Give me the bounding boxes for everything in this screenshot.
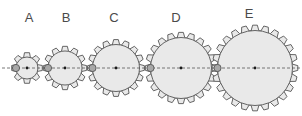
label-group: ABCDE: [25, 6, 254, 25]
gear-e-hub: [214, 64, 221, 71]
gear-d-center-dot: [180, 67, 183, 70]
gear-label-e: E: [245, 6, 254, 21]
gear-diagram-canvas: ABCDE: [0, 0, 302, 116]
gear-e-center-dot: [254, 67, 257, 70]
gear-b-center-dot: [64, 67, 67, 70]
gear-label-b: B: [62, 10, 71, 25]
gear-label-c: C: [109, 10, 118, 25]
gear-d-hub: [147, 64, 154, 71]
gear-c-hub: [89, 64, 96, 71]
gear-label-d: D: [171, 10, 180, 25]
gear-c-center-dot: [115, 67, 118, 70]
gear-a-center-dot: [26, 67, 29, 70]
gear-train-diagram: ABCDE: [0, 0, 302, 116]
gear-a-hub: [12, 64, 19, 71]
gear-b-hub: [44, 64, 51, 71]
gear-label-a: A: [25, 10, 34, 25]
